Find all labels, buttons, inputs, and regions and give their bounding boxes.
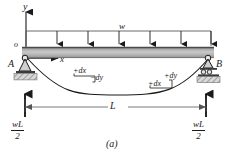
x-axis-label: x (60, 55, 64, 64)
span-length-label: L (110, 101, 116, 111)
reaction-right-denominator: 2 (192, 132, 205, 141)
left-dy-label: −dy (90, 74, 103, 82)
right-dx-label: +dx (148, 80, 161, 88)
reaction-left-numerator: wL (11, 120, 24, 129)
reaction-left-value: wL 2 (11, 120, 24, 142)
left-dx-label: +dx (73, 67, 86, 75)
right-dy-label: +dy (164, 72, 177, 80)
beam-deflection-figure: y o x w A B +dx −dy +dy +dx L wL 2 wL 2 … (0, 0, 231, 159)
support-b-label: B (216, 59, 222, 69)
reaction-left-denominator: 2 (11, 132, 24, 141)
distributed-load (26, 31, 211, 46)
reaction-right-value: wL 2 (192, 120, 205, 142)
origin-label: o (14, 41, 18, 49)
reaction-right-numerator: wL (192, 120, 205, 129)
pin-support-a (14, 55, 37, 80)
support-a-label: A (8, 59, 14, 69)
distributed-load-label: w (119, 22, 125, 31)
beam-body (22, 47, 214, 58)
figure-caption: (a) (106, 139, 118, 149)
deflection-curve (28, 59, 208, 95)
y-axis-label: y (23, 2, 27, 12)
